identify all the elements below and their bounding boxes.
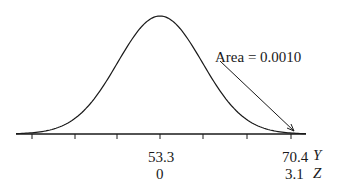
annotation-arrow: [220, 61, 294, 131]
z-axis-label: Z: [313, 166, 321, 181]
y-cut-label: 70.4: [282, 150, 308, 165]
y-axis-label: Y: [313, 148, 321, 163]
axis-ticks: [32, 134, 291, 139]
y-mean-label: 53.3: [148, 150, 174, 165]
z-mean-label: 0: [156, 167, 164, 182]
area-annotation: Area = 0.0010: [215, 50, 301, 65]
normal-curve: [16, 16, 306, 134]
z-cut-label: 3.1: [285, 167, 304, 182]
